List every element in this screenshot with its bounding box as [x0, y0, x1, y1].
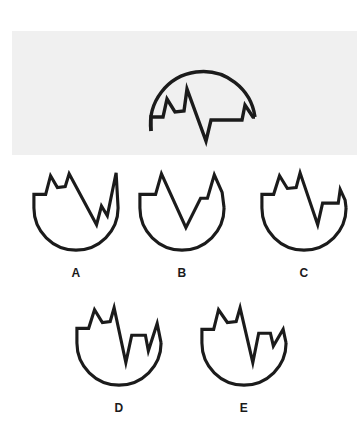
option-d-figure[interactable]	[67, 298, 171, 390]
option-d-jagged-edge	[77, 308, 161, 363]
options-row-bottom: D E	[0, 298, 359, 420]
option-e[interactable]: E	[188, 298, 300, 414]
option-d[interactable]: D	[63, 298, 175, 414]
option-d-label: D	[63, 402, 175, 414]
option-c-figure[interactable]	[252, 163, 356, 255]
option-c-bowl-arc	[262, 208, 346, 250]
option-b-bowl-arc	[140, 208, 224, 250]
option-e-jagged-edge	[202, 308, 286, 363]
option-a[interactable]: A	[20, 163, 132, 279]
option-b-label: B	[126, 267, 238, 279]
option-b-figure[interactable]	[130, 163, 234, 255]
option-c-jagged-edge	[262, 173, 346, 225]
option-a-jagged-edge	[34, 173, 118, 225]
option-e-figure[interactable]	[192, 298, 296, 390]
reference-jagged-edge	[151, 89, 255, 141]
option-a-label: A	[20, 267, 132, 279]
puzzle-root: A B C D	[0, 0, 359, 442]
option-e-bowl-arc	[202, 343, 286, 385]
options-row-top: A B C	[0, 163, 359, 283]
reference-band	[12, 31, 357, 155]
option-c-label: C	[248, 267, 359, 279]
option-b-jagged-edge	[140, 174, 224, 228]
reference-figure	[12, 31, 357, 155]
option-a-figure[interactable]	[24, 163, 128, 255]
option-b[interactable]: B	[126, 163, 238, 279]
option-c[interactable]: C	[248, 163, 359, 279]
option-e-label: E	[188, 402, 300, 414]
